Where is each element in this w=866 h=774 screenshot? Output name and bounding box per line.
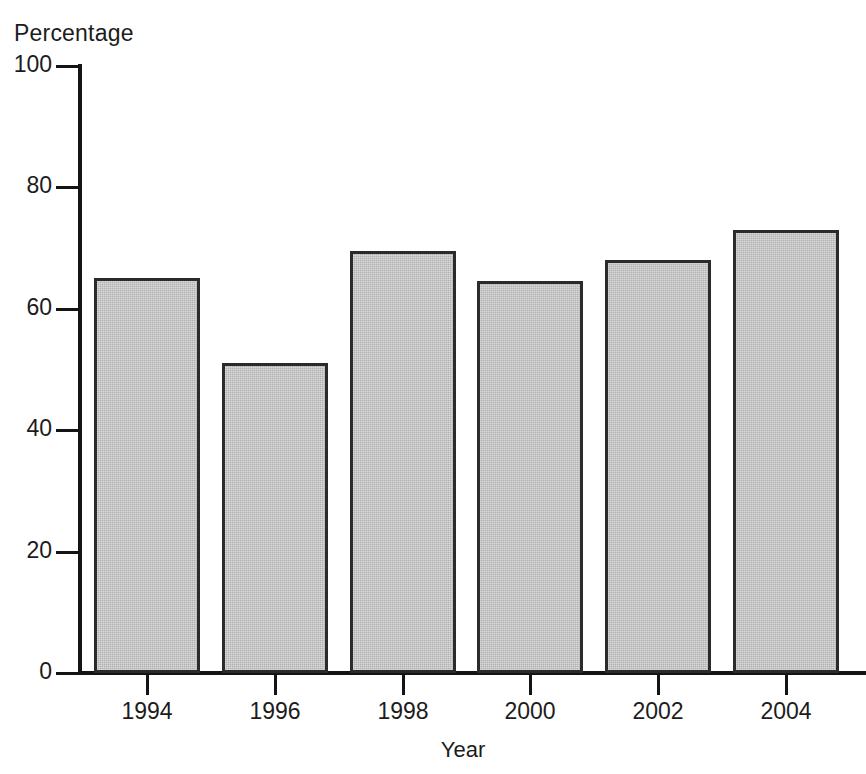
bar-chart-figure: Percentage 020406080100 1994199619982000… xyxy=(0,0,866,774)
x-tick-label: 1994 xyxy=(87,698,207,724)
x-tick-label: 1996 xyxy=(215,698,335,724)
y-tick-label: 40 xyxy=(0,417,52,440)
bar-2004 xyxy=(733,230,839,673)
x-axis-title: Year xyxy=(0,737,866,763)
y-tick-mark xyxy=(56,551,80,554)
x-tick-label: 2004 xyxy=(726,698,846,724)
y-tick-label: 0 xyxy=(0,660,52,683)
y-tick-mark xyxy=(56,186,80,189)
y-tick-label: 80 xyxy=(0,174,52,197)
x-tick-mark xyxy=(657,675,660,695)
x-tick-mark xyxy=(274,675,277,695)
x-tick-mark xyxy=(402,675,405,695)
bar-2002 xyxy=(605,260,711,673)
y-tick-mark xyxy=(56,308,80,311)
y-axis-title: Percentage xyxy=(14,20,134,47)
bar-1998 xyxy=(350,251,456,673)
x-tick-label: 2000 xyxy=(470,698,590,724)
y-tick-label-text: 40 xyxy=(4,417,52,440)
x-tick-mark xyxy=(785,675,788,695)
x-axis-title-text: Year xyxy=(441,737,485,762)
x-tick-label: 2002 xyxy=(598,698,718,724)
y-tick-mark xyxy=(56,65,80,68)
x-tick-mark xyxy=(529,675,532,695)
y-axis-line xyxy=(78,64,82,675)
y-tick-label-text: 80 xyxy=(4,174,52,197)
y-tick-label-text: 100 xyxy=(4,53,52,76)
y-tick-mark xyxy=(56,672,80,675)
x-tick-label: 1998 xyxy=(343,698,463,724)
bar-1996 xyxy=(222,363,328,673)
x-tick-mark xyxy=(146,675,149,695)
y-tick-label-text: 20 xyxy=(4,539,52,562)
y-tick-label: 100 xyxy=(0,53,52,76)
bar-2000 xyxy=(477,281,583,673)
bar-1994 xyxy=(94,278,200,673)
y-tick-label-text: 0 xyxy=(4,660,52,683)
y-tick-label-text: 60 xyxy=(4,296,52,319)
y-tick-label: 60 xyxy=(0,296,52,319)
y-tick-mark xyxy=(56,429,80,432)
y-tick-label: 20 xyxy=(0,539,52,562)
